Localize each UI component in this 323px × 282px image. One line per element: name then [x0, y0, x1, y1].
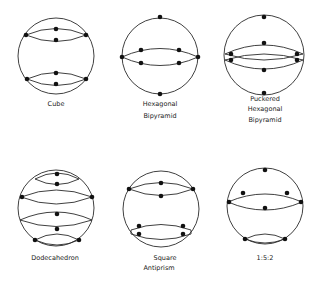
hexagonal-bipyramid-vertices — [120, 15, 201, 97]
bottom-ring-front — [245, 239, 285, 243]
figure-canvas — [0, 0, 323, 282]
label-square-antiprism-line1: Square — [154, 255, 177, 262]
puckered-hexagonal-bipyramid-diagram — [224, 15, 304, 95]
ring-2-front — [21, 197, 92, 204]
dodecahedron-vertices — [20, 172, 95, 243]
ring-4-front — [35, 240, 79, 245]
label-puckered-line3: Bipyramid — [248, 117, 281, 124]
cube-vertices — [24, 27, 89, 87]
puckered-hexagonal-bipyramid-vertices — [229, 15, 300, 96]
label-dodecahedron: Dodecahedron — [31, 255, 79, 262]
upper-ring-back — [225, 45, 303, 54]
polyhedra-figure: Cube Hexagonal Bipyramid Puckered Hexago… — [0, 0, 323, 282]
label-cube: Cube — [48, 101, 65, 108]
middle-ring-back — [228, 194, 302, 202]
ring-2-back — [21, 190, 92, 197]
label-one-five-two: 1:5:2 — [257, 255, 274, 262]
label-puckered-line1: Puckered — [250, 96, 280, 103]
sphere-outline — [224, 15, 304, 95]
sphere-outline — [122, 18, 198, 94]
equator-ring-front — [122, 57, 198, 66]
ring-4-back — [35, 234, 79, 240]
label-hexagonal-bipyramid-line1: Hexagonal — [143, 101, 178, 108]
label-puckered-line2: Hexagonal — [248, 106, 283, 113]
dodecahedron-diagram — [18, 170, 94, 246]
label-hexagonal-bipyramid-line2: Bipyramid — [143, 113, 176, 120]
lower-ring-back — [225, 54, 303, 60]
lower-ring-front — [225, 60, 303, 69]
ring-3-front — [20, 220, 92, 227]
bottom-ring-back — [245, 234, 285, 239]
sphere-outline — [18, 170, 94, 246]
label-square-antiprism-line2: Antiprism — [143, 265, 174, 272]
equator-ring-back — [122, 49, 198, 58]
hexagonal-bipyramid-diagram — [122, 18, 198, 94]
